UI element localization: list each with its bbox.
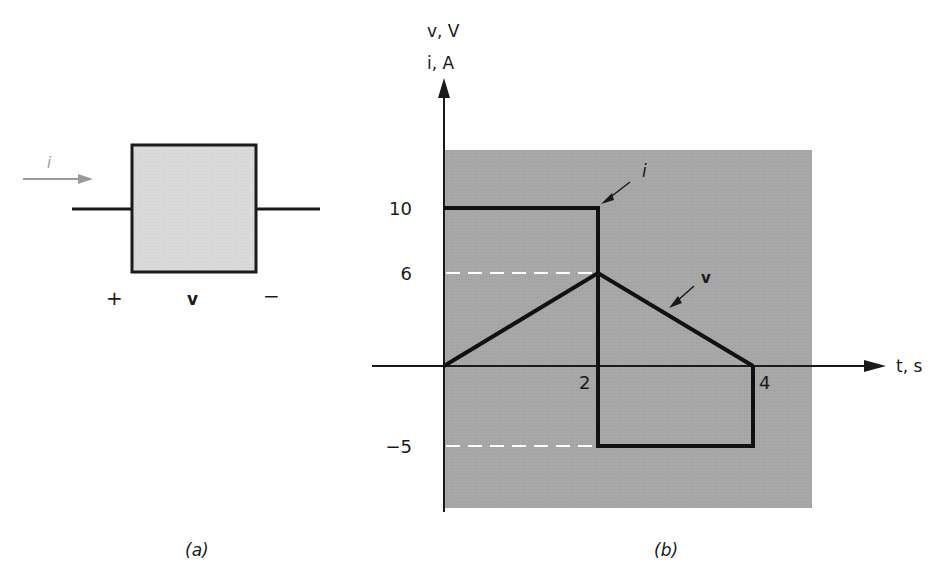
x-axis-label: t, s — [896, 356, 922, 376]
x-tick-2: 2 — [579, 372, 590, 393]
x-tick-4: 4 — [759, 372, 770, 393]
figure-a: i + v − (a) — [23, 145, 320, 560]
y-tick-10: 10 — [389, 198, 412, 219]
y-axis-label-voltage: v, V — [427, 21, 460, 41]
voltage-label-a: v — [187, 289, 198, 309]
caption-b: (b) — [654, 540, 678, 560]
voltage-curve-label: v — [701, 269, 711, 287]
current-label-a: i — [47, 154, 52, 172]
figure-b: i v v, V i, A t, s 10 6 −5 2 4 (b) — [372, 21, 922, 560]
x-axis-arrow-icon — [864, 360, 886, 372]
y-axis-label-current: i, A — [427, 53, 455, 73]
caption-a: (a) — [185, 540, 209, 560]
minus-terminal-label: − — [263, 284, 280, 308]
y-tick-6: 6 — [401, 263, 412, 284]
current-arrow-icon — [23, 174, 93, 184]
y-tick-minus5: −5 — [385, 436, 412, 457]
figure-canvas: i + v − (a) i v v, V i, A — [0, 0, 934, 583]
circuit-element-box — [132, 145, 256, 272]
current-curve-label: i — [642, 161, 647, 181]
plus-terminal-label: + — [106, 286, 123, 310]
plot-background-panel — [444, 150, 812, 508]
y-axis-arrow-icon — [438, 78, 450, 98]
